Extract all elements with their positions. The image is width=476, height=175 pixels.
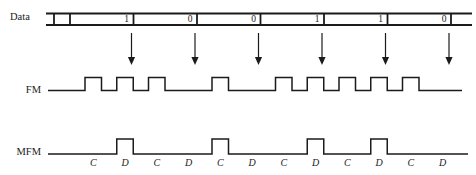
fm-waveform <box>48 78 462 91</box>
sampling-arrow <box>445 33 452 65</box>
sampling-arrow <box>128 33 135 65</box>
data-track-band <box>46 14 472 26</box>
halfcell-label: D <box>311 157 320 168</box>
halfcell-label: D <box>247 157 256 168</box>
data-bit-label: 1 <box>315 14 320 24</box>
halfcell-label: C <box>280 157 287 168</box>
halfcell-label: D <box>438 157 447 168</box>
halfcell-label: C <box>217 157 224 168</box>
halfcell-label: C <box>407 157 414 168</box>
sampling-arrow <box>191 33 198 65</box>
data-bit-label: 1 <box>378 14 383 24</box>
halfcell-label: D <box>184 157 193 168</box>
data-bit-label: 1 <box>124 14 129 24</box>
data-bit-label: 0 <box>188 14 193 24</box>
halfcell-label: D <box>374 157 383 168</box>
sampling-arrow <box>382 33 389 65</box>
halfcell-label: C <box>153 157 160 168</box>
waveforms-canvas: 100110CDCDCDCDCDCD <box>0 0 476 175</box>
sampling-arrow <box>318 33 325 65</box>
sampling-arrow <box>255 33 262 65</box>
mfm-waveform <box>48 139 468 154</box>
halfcell-label: D <box>120 157 129 168</box>
halfcell-label: C <box>90 157 97 168</box>
halfcell-label: C <box>344 157 351 168</box>
fm-mfm-encoding-diagram: Data FM MFM 100110CDCDCDCDCDCD <box>0 0 476 175</box>
data-bit-label: 0 <box>442 14 447 24</box>
data-bit-label: 0 <box>251 14 256 24</box>
